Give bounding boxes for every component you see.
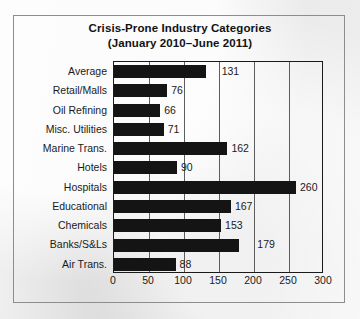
bar-value-label: 131 [218, 62, 240, 81]
x-tick-label-100: 100 [174, 274, 192, 286]
chart-title-block: Crisis-Prone Industry Categories (Januar… [14, 21, 346, 51]
bar [114, 200, 231, 213]
category-label: Chemicals [58, 216, 114, 235]
bar-row: Hospitals260 [114, 178, 322, 197]
x-axis-tick-labels: 050100150200250300 [113, 274, 323, 290]
plot-area: Average131Retail/Malls76Oil Refining66Mi… [113, 61, 323, 273]
category-label: Hospitals [64, 178, 114, 197]
category-label: Misc. Utilities [46, 120, 114, 139]
category-label: Retail/Malls [53, 81, 114, 100]
bar [114, 161, 177, 174]
bar [114, 104, 160, 117]
bar-row: Banks/S&Ls179 [114, 235, 322, 254]
bar-value-label: 153 [221, 216, 243, 235]
bar-row: Average131 [114, 62, 322, 81]
bar [114, 181, 296, 194]
bar [114, 142, 227, 155]
bar-value-label: 260 [296, 178, 318, 197]
bar [114, 84, 167, 97]
bar-row: Retail/Malls76 [114, 81, 322, 100]
chart-figure-frame: Crisis-Prone Industry Categories (Januar… [13, 15, 345, 303]
x-tick-label-250: 250 [279, 274, 297, 286]
bar-value-label: 167 [231, 197, 253, 216]
bar [114, 123, 164, 136]
category-label: Hotels [77, 158, 114, 177]
category-label: Marine Trans. [43, 139, 114, 158]
bar-row: Marine Trans.162 [114, 139, 322, 158]
bar [114, 65, 206, 78]
chart-title: Crisis-Prone Industry Categories [14, 21, 346, 36]
bar-value-label: 66 [160, 101, 176, 120]
x-tick-label-0: 0 [110, 274, 116, 286]
x-tick-label-150: 150 [209, 274, 227, 286]
x-tick-label-200: 200 [244, 274, 262, 286]
bar [114, 219, 221, 232]
category-label: Air Trans. [62, 255, 114, 274]
bar-value-label: 90 [177, 158, 193, 177]
category-label: Average [68, 62, 114, 81]
bar-value-label: 162 [227, 139, 249, 158]
category-label: Oil Refining [53, 101, 114, 120]
bar-row: Chemicals153 [114, 216, 322, 235]
chart-subtitle: (January 2010–June 2011) [14, 36, 346, 51]
x-tick-label-50: 50 [142, 274, 154, 286]
bar [114, 239, 239, 252]
category-label: Banks/S&Ls [50, 235, 114, 254]
bar-value-label: 71 [164, 120, 180, 139]
bar-row: Misc. Utilities71 [114, 120, 322, 139]
bar [114, 258, 176, 271]
bar-row: Hotels90 [114, 158, 322, 177]
bar-value-label: 88 [176, 255, 192, 274]
category-label: Educational [52, 197, 114, 216]
bar-row: Air Trans.88 [114, 255, 322, 274]
bar-row: Educational167 [114, 197, 322, 216]
x-tick-label-300: 300 [314, 274, 332, 286]
bar-row: Oil Refining66 [114, 101, 322, 120]
bar-value-label: 76 [167, 81, 183, 100]
bar-value-label: 179 [253, 235, 275, 254]
